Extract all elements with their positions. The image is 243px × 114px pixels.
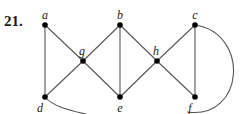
- node-label-h: h: [153, 44, 159, 58]
- node-f: [192, 94, 198, 100]
- edge-e-h: [120, 61, 157, 97]
- edge-h-f: [157, 61, 195, 97]
- edge-h-c: [157, 25, 195, 61]
- edge-g-d: [45, 61, 83, 97]
- edge-b-h: [120, 25, 157, 61]
- node-label-g: g: [79, 44, 85, 58]
- node-d: [42, 94, 48, 100]
- node-label-a: a: [42, 8, 48, 22]
- edge-g-e: [83, 61, 120, 97]
- node-label-b: b: [117, 8, 123, 22]
- node-label-c: c: [192, 8, 198, 22]
- node-label-d: d: [37, 101, 44, 114]
- edge-g-b: [83, 25, 120, 61]
- node-c: [192, 22, 198, 28]
- edge-a-g: [45, 25, 83, 61]
- problem-number: 21.: [4, 13, 23, 29]
- node-b: [117, 22, 123, 28]
- node-h: [154, 58, 160, 64]
- node-g: [80, 58, 86, 64]
- node-a: [42, 22, 48, 28]
- graph-diagram: 21. abcghdef: [0, 0, 243, 114]
- node-e: [117, 94, 123, 100]
- node-label-e: e: [117, 101, 123, 114]
- edge-d-f: [45, 97, 97, 114]
- edges: [45, 25, 234, 114]
